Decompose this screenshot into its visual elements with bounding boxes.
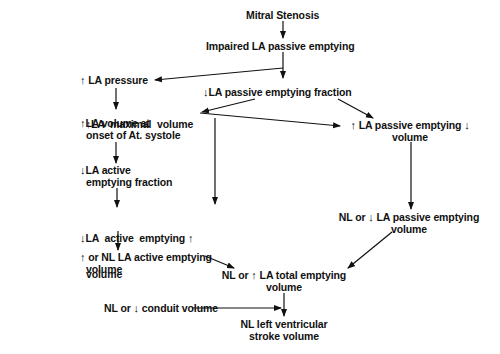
node-la-onset-volume: ↑LA volume at onset of At. systole	[80, 117, 180, 141]
node-total-emptying-volume: NL or ↑ LA total emptying volume	[218, 269, 350, 293]
arrow-fraction-to-max	[202, 99, 255, 112]
node-passive-emptying-volume-nl: NL or ↓ LA passive emptying volume	[334, 211, 484, 235]
node-passive-emptying-fraction: ↓LA passive emptying fraction	[203, 86, 352, 98]
down-arrow-icon: ↓	[464, 119, 469, 131]
up-arrow-icon: ↑	[350, 119, 355, 131]
node-active-emptying-volume: ↓LA active emptying ↑ volume	[80, 208, 193, 292]
arrow-max-to-passive-up	[200, 113, 340, 126]
arrow-fraction-to-passive-up	[338, 99, 373, 118]
up-arrow-icon: ↑	[80, 74, 85, 86]
arrows-layer	[0, 0, 500, 354]
arrow-impaired-to-pressure	[155, 68, 283, 80]
up-arrow-icon: ↑	[188, 232, 193, 244]
node-impaired-passive-emptying: Impaired LA passive emptying	[206, 40, 355, 52]
node-conduit-volume: NL or ↓ conduit volume	[104, 302, 218, 314]
node-lv-stroke-volume: NL left ventricular stroke volume	[234, 318, 334, 342]
node-active-emptying-fraction: ↓LA active emptying fraction	[80, 164, 172, 188]
node-la-pressure: ↑ LA pressure	[80, 74, 148, 86]
node-active-emptying-volume-nl: ↑ or NL LA active emptying volume	[80, 251, 212, 275]
node-passive-emptying-volume-up: ↑ LA passive emptying ↓ volume	[345, 119, 475, 143]
arrow-passive-nl-to-total	[348, 232, 392, 268]
node-mitral-stenosis: Mitral Stenosis	[246, 9, 319, 21]
